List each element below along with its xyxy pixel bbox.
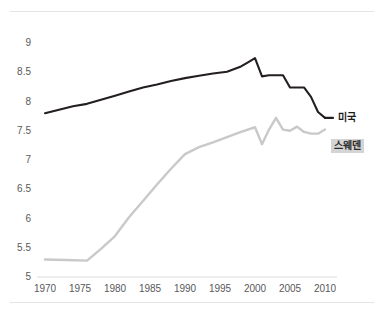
x-tick-1990: 1990 [165,284,205,294]
x-tick-1975: 1975 [60,284,100,294]
chart-figure: 98.587.576.565.55 1970197519801985199019… [0,0,384,319]
y-tick-6: 6 [5,214,31,224]
series-lines [45,58,333,260]
y-tick-8.5: 8.5 [5,67,31,77]
line-chart-plot [0,0,384,319]
y-tick-9: 9 [5,38,31,48]
y-tick-7.5: 7.5 [5,126,31,136]
x-tick-1970: 1970 [25,284,65,294]
x-tick-2000: 2000 [235,284,275,294]
y-tick-5: 5 [5,272,31,282]
x-tick-2010: 2010 [305,284,345,294]
y-tick-6.5: 6.5 [5,184,31,194]
series-label-sweden: 스웨덴 [331,139,364,153]
y-tick-5.5: 5.5 [5,243,31,253]
x-tick-1985: 1985 [130,284,170,294]
x-tick-1980: 1980 [95,284,135,294]
y-tick-7: 7 [5,155,31,165]
y-tick-8: 8 [5,97,31,107]
series-line-1 [45,118,325,261]
x-tick-1995: 1995 [200,284,240,294]
series-line-0 [45,58,325,118]
series-label-usa: 미국 [338,112,356,124]
x-tick-2005: 2005 [270,284,310,294]
